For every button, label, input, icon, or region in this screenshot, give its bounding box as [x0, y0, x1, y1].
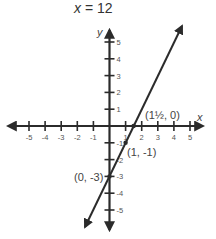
- x-tick-label: 5: [188, 133, 192, 142]
- x-tick-label: -1: [90, 133, 97, 142]
- point-x-intercept: [131, 124, 135, 128]
- x-tick-label: -2: [74, 133, 81, 142]
- point-y-intercept: [107, 174, 111, 178]
- y-tick-label: 1: [117, 105, 121, 114]
- y-tick-label: -3: [117, 172, 124, 181]
- y-tick-label: 3: [117, 72, 121, 81]
- y-axis-label: y: [96, 26, 104, 38]
- coordinate-graph: x = 12 -5-4-3-2-112345 54321-1-2-3-4-5 x…: [0, 0, 216, 239]
- x-tick-label: 4: [172, 133, 176, 142]
- y-tick-label: 5: [117, 38, 121, 47]
- y-tick-label: -1: [117, 139, 124, 148]
- x-tick-label: -3: [58, 133, 65, 142]
- point-label-1-neg1: (1, -1): [127, 146, 156, 158]
- point-label-y-intercept: (0, -3): [74, 171, 103, 183]
- point-label-x-intercept: (1½, 0): [145, 109, 180, 121]
- point-1-neg1: [123, 141, 127, 145]
- y-tick-label: -4: [117, 189, 124, 198]
- y-tick-label: 4: [117, 55, 121, 64]
- x-tick-label: 2: [140, 133, 144, 142]
- y-tick-label: -5: [117, 206, 124, 215]
- x-tick-label: 3: [156, 133, 160, 142]
- x-axis-label: x: [196, 111, 203, 123]
- x-tick-label: -4: [42, 133, 49, 142]
- graph-title: x = 12: [73, 0, 113, 16]
- y-tick-label: 2: [117, 88, 121, 97]
- x-tick-label: -5: [26, 133, 33, 142]
